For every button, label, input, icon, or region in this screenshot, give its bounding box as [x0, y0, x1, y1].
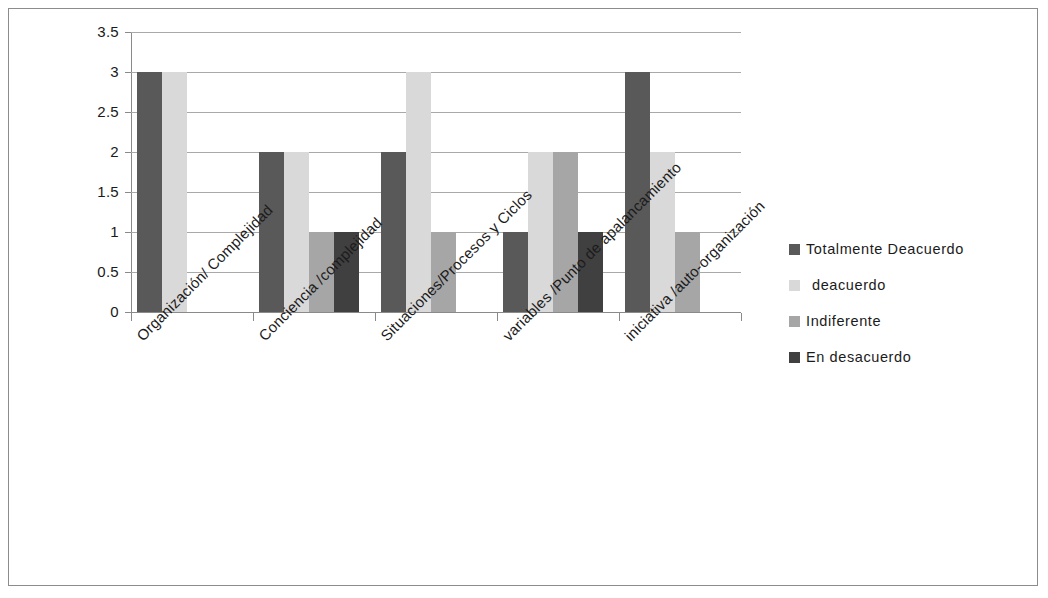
bar	[162, 72, 187, 312]
legend-swatch-icon	[789, 244, 800, 255]
chart-legend: Totalmente DeacuerdodeacuerdoIndiferente…	[789, 231, 964, 375]
bar	[137, 72, 162, 312]
x-axis-tick	[741, 313, 742, 321]
y-axis-tick-label: 2	[59, 144, 119, 159]
gridline	[131, 32, 741, 33]
x-axis-tick	[131, 313, 132, 321]
legend-item[interactable]: Indiferente	[789, 303, 964, 339]
legend-item[interactable]: Totalmente Deacuerdo	[789, 231, 964, 267]
y-axis-label-slot: 3.5	[51, 32, 119, 33]
y-axis-label-slot: 2	[51, 152, 119, 153]
bar	[381, 152, 406, 312]
y-axis-tick-label: 0.5	[59, 264, 119, 279]
y-axis-tick-label: 2.5	[59, 104, 119, 119]
legend-item[interactable]: En desacuerdo	[789, 339, 964, 375]
y-axis-label-slot: 3	[51, 72, 119, 73]
legend-swatch-icon	[789, 316, 800, 327]
y-axis-tick-label: 3	[59, 64, 119, 79]
bar	[406, 72, 431, 312]
plot-area	[131, 32, 741, 312]
y-axis-tick-label: 1	[59, 224, 119, 239]
y-axis-tick-label: 0	[59, 304, 119, 319]
x-axis-tick	[497, 313, 498, 321]
legend-item-label: Totalmente Deacuerdo	[806, 241, 964, 257]
bar	[503, 232, 528, 312]
y-axis-label-slot: 0.5	[51, 272, 119, 273]
y-axis-tick-label: 3.5	[59, 24, 119, 39]
legend-item-label: deacuerdo	[812, 277, 886, 293]
y-axis-label-slot: 2.5	[51, 112, 119, 113]
x-axis-tick	[375, 313, 376, 321]
y-axis-tick-label: 1.5	[59, 184, 119, 199]
legend-item-label: En desacuerdo	[806, 349, 911, 365]
legend-swatch-icon	[789, 280, 800, 291]
y-axis-label-slot: 0	[51, 312, 119, 313]
y-axis-label-slot: 1	[51, 232, 119, 233]
x-axis-tick	[253, 313, 254, 321]
legend-item[interactable]: deacuerdo	[789, 267, 964, 303]
legend-item-label: Indiferente	[806, 313, 881, 329]
legend-swatch-icon	[789, 352, 800, 363]
chart-frame: 00.511.522.533.5 Organización/ Complejid…	[8, 8, 1038, 586]
bar	[259, 152, 284, 312]
y-axis-label-slot: 1.5	[51, 192, 119, 193]
x-axis-tick	[619, 313, 620, 321]
